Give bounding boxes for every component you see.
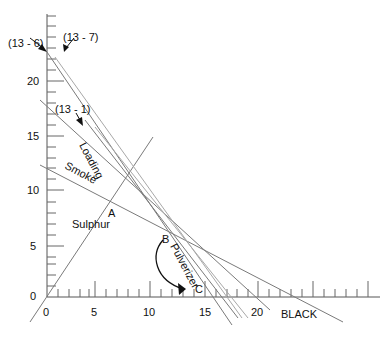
- arrowhead-icon: [178, 283, 186, 295]
- smoke-line: [40, 165, 343, 322]
- y-tick-label-5: 5: [30, 240, 36, 252]
- y-tick-label-15: 15: [27, 130, 39, 142]
- y-tick-label-20: 20: [27, 75, 39, 87]
- label-13-1: (13 - 1): [55, 103, 90, 115]
- y-tick-label-0: 0: [30, 290, 36, 302]
- loading-line: [40, 100, 270, 310]
- sulphur-label: Sulphur: [72, 218, 110, 230]
- point-b-label: B: [162, 233, 169, 245]
- x-tick-label-20: 20: [251, 306, 263, 318]
- point-c-label: C: [195, 283, 203, 295]
- label-13-6: (13 - 6): [8, 37, 43, 49]
- x-axis-ticks: [58, 281, 368, 297]
- x-tick-label-15: 15: [199, 306, 211, 318]
- x-tick-label-10: 10: [143, 306, 155, 318]
- line-13-6: [47, 52, 232, 325]
- arrowhead-icon: [76, 117, 83, 126]
- x-axis-label: BLACK: [281, 308, 318, 320]
- x-tick-label-5: 5: [91, 306, 97, 318]
- point-a-label: A: [108, 207, 116, 219]
- label-13-7: (13 - 7): [63, 31, 98, 43]
- y-tick-label-10: 10: [27, 184, 39, 196]
- x-tick-label-0: 0: [43, 306, 49, 318]
- constraint-diagram: 0 5 10 15 20 0 5 10 15 20 BLACK (13 - 6)…: [0, 0, 392, 340]
